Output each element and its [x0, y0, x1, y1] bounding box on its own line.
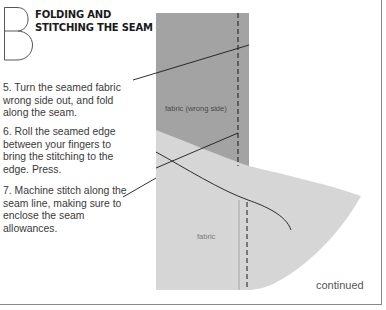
- fabric-wrong-side-label: fabric (wrong side): [165, 104, 227, 113]
- seam-illustration: [0, 0, 386, 310]
- fabric-label: fabric: [197, 232, 215, 241]
- fabric-right-side-shape: [156, 130, 361, 290]
- continued-label: continued: [316, 279, 364, 291]
- pointer-step-7: [123, 178, 156, 197]
- instruction-page: FOLDING AND STITCHING THE SEAM 5. Turn t…: [0, 0, 386, 310]
- page-border-right: [381, 0, 382, 305]
- page-border-bottom: [0, 304, 382, 305]
